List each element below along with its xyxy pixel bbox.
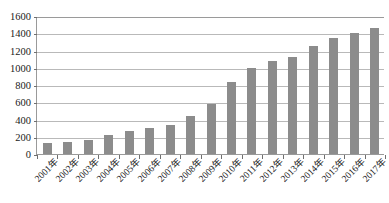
- y-axis-tick-label: 200: [0, 133, 31, 144]
- bar: [288, 57, 297, 154]
- bar: [227, 82, 236, 154]
- bar: [84, 140, 93, 154]
- x-axis-tick-mark: [385, 155, 386, 159]
- y-axis-tick-label: 0: [0, 150, 31, 161]
- bar: [104, 135, 113, 154]
- y-axis-tick-label: 600: [0, 98, 31, 109]
- bar: [186, 116, 195, 154]
- bar: [43, 143, 52, 154]
- bar-chart: 02004006008001000120014001600 2001年2002年…: [0, 0, 389, 203]
- bar: [309, 46, 318, 154]
- bar: [207, 104, 216, 154]
- y-axis-tick-label: 1000: [0, 64, 31, 75]
- y-axis-tick-label: 1200: [0, 47, 31, 58]
- bar: [268, 61, 277, 154]
- x-axis-labels: 2001年2002年2003年2004年2005年2006年2007年2008年…: [36, 157, 384, 203]
- y-axis-tick-label: 800: [0, 81, 31, 92]
- bar: [125, 131, 134, 154]
- y-axis-tick-label: 400: [0, 116, 31, 127]
- bar: [350, 33, 359, 154]
- y-axis-tick-label: 1400: [0, 29, 31, 40]
- bar: [166, 125, 175, 154]
- bar: [145, 128, 154, 154]
- y-axis-tick-label: 1600: [0, 12, 31, 23]
- plot-area: [36, 17, 384, 155]
- bar: [63, 142, 72, 154]
- bar: [329, 38, 338, 154]
- bar: [247, 68, 256, 154]
- bars-layer: [37, 17, 384, 154]
- bar: [370, 28, 379, 154]
